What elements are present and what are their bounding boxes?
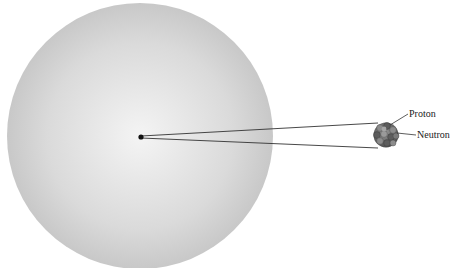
proton-label: Proton bbox=[409, 108, 436, 119]
nucleons bbox=[374, 123, 399, 147]
nucleus-dot bbox=[138, 134, 143, 139]
atom-diagram: Proton Neutron bbox=[0, 0, 452, 268]
neutron-label: Neutron bbox=[417, 129, 450, 140]
magnified-nucleus bbox=[374, 123, 400, 148]
